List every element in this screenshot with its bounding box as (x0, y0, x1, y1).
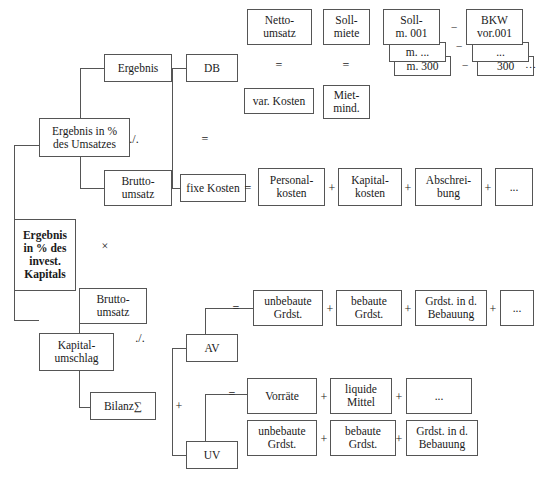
node-profit-margin[interactable]: Ergebnis in % des Umsatzes (39, 118, 130, 157)
node-uv-vorraete[interactable]: Vorräte (247, 378, 317, 414)
operator-soll-bkw-minus-1: – (447, 21, 461, 33)
operator-uv-plus-1: + (317, 391, 331, 403)
node-miet-mind[interactable]: Miet- mind. (323, 85, 370, 119)
operator-av-plus-3: + (486, 303, 500, 315)
operator-soll-bkw-minus-3: – (458, 59, 472, 71)
node-uv-more[interactable]: ... (406, 378, 472, 414)
connector-margin-to-ergebnis (80, 68, 104, 69)
node-soll-m-dots[interactable]: m. ... (389, 42, 446, 62)
node-brutto-umsatz-bottom[interactable]: Brutto- umsatz (79, 288, 147, 324)
node-av-bebaute[interactable]: bebaute Grdst. (336, 290, 402, 326)
operator-stack-tail-dots: ... (521, 58, 541, 70)
operator-uv-row2-plus-1: + (317, 433, 331, 445)
operator-margin-divide: ./. (122, 133, 146, 145)
operator-av-equals: = (228, 302, 244, 314)
connector-margin-to-brutto (80, 188, 104, 189)
connector-root-to-margin (14, 145, 39, 146)
connector-ergebnis-to-db (172, 68, 186, 69)
operator-uv-row2-plus-2: + (392, 433, 406, 445)
connector-ergebnis-vertical (172, 68, 173, 188)
operator-av-plus-2: + (401, 303, 415, 315)
node-uv-bebauung[interactable]: Grdst. in d. Bebauung (406, 420, 478, 456)
node-db[interactable]: DB (186, 54, 238, 82)
operator-uv-plus-2: + (392, 391, 406, 403)
node-av[interactable]: AV (186, 334, 238, 362)
operator-fixe-plus-3: + (481, 182, 495, 194)
operator-miete-minus: = (336, 59, 356, 71)
operator-soll-bkw-minus-2: – (452, 40, 466, 52)
node-fix-more[interactable]: ... (495, 168, 533, 206)
operator-netto-minus: = (269, 59, 289, 71)
node-bilanz-summe[interactable]: Bilanz∑ (90, 392, 156, 420)
node-bkw-vor-001[interactable]: BKW vor.001 (466, 9, 523, 45)
roi-diagram-canvas: Ergebnis in % des invest. Kapitals Ergeb… (0, 0, 543, 478)
operator-av-plus-1: + (323, 303, 337, 315)
node-var-kosten[interactable]: var. Kosten (244, 88, 314, 114)
node-fixe-kosten[interactable]: fixe Kosten (180, 174, 246, 202)
node-kapitalumschlag[interactable]: Kapital- umschlag (39, 333, 114, 371)
operator-fixe-plus-2: + (401, 182, 415, 194)
operator-uv-equals: = (224, 388, 240, 400)
node-uv-unbebaute[interactable]: unbebaute Grdst. (247, 420, 317, 456)
node-soll-m-001[interactable]: Soll- m. 001 (383, 9, 440, 45)
node-brutto-umsatz-top[interactable]: Brutto- umsatz (104, 170, 172, 206)
node-netto-umsatz[interactable]: Netto- umsatz (247, 9, 312, 45)
node-av-bebauung[interactable]: Grdst. in d. Bebauung (415, 290, 487, 326)
node-av-unbebaute[interactable]: unbebaute Grdst. (253, 290, 323, 326)
operator-fixe-plus-1: + (325, 182, 339, 194)
node-soll-miete[interactable]: Soll- miete (323, 9, 370, 45)
node-av-more[interactable]: ... (500, 290, 534, 326)
node-uv-bebaute[interactable]: bebaute Grdst. (330, 420, 396, 456)
operator-root-multiply: × (95, 240, 115, 252)
operator-bilanz-plus: + (172, 400, 186, 412)
connector-bilanz-to-av (172, 348, 186, 349)
node-abschreibung[interactable]: Abschrei- bung (415, 168, 482, 206)
operator-umschlag-divide: ./. (128, 332, 152, 344)
operator-fixe-equals: = (240, 182, 256, 194)
node-personalkosten[interactable]: Personal- kosten (258, 168, 325, 206)
node-uv[interactable]: UV (186, 441, 238, 469)
node-root[interactable]: Ergebnis in % des invest. Kapitals (14, 219, 76, 291)
node-kapitalkosten[interactable]: Kapital- kosten (338, 168, 402, 206)
connector-root-to-umschlag (14, 320, 39, 321)
connector-bilanz-to-uv (172, 455, 186, 456)
node-ergebnis[interactable]: Ergebnis (104, 54, 172, 82)
operator-ergebnis-equals: = (195, 133, 215, 145)
node-uv-liquide[interactable]: liquide Mittel (330, 378, 392, 414)
